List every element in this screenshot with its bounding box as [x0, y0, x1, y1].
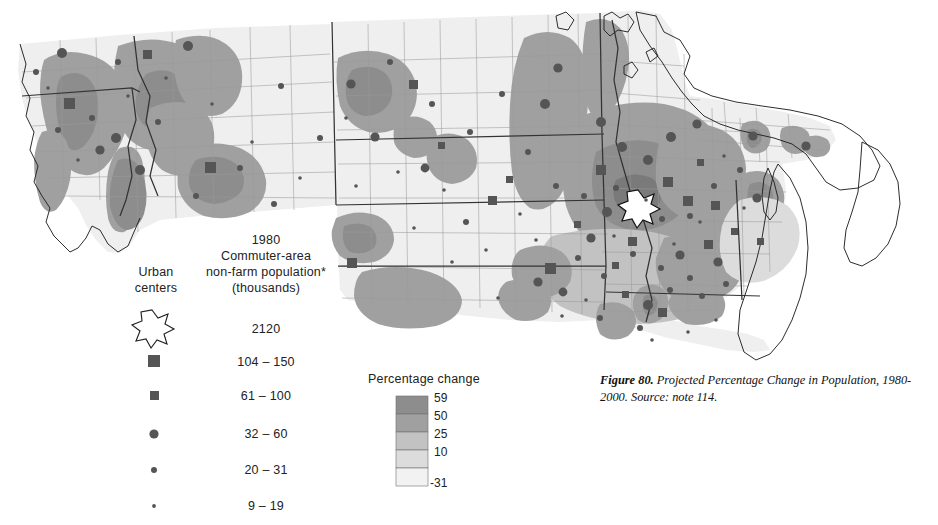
legend-value-star: 2120 — [252, 322, 281, 336]
scale-label-10: 10 — [434, 445, 448, 459]
legend-symbol-circle-small — [151, 467, 157, 473]
legend-symbol-star — [132, 310, 174, 348]
legend-symbol-square-large — [148, 355, 160, 367]
legend-value-circle-small: 20 – 31 — [244, 463, 287, 477]
figure-80-map: Urban centers 1980 Commuter-area non-far… — [0, 0, 938, 525]
legend-symbol-square-small — [150, 391, 159, 400]
figure-caption: Figure 80. Projected Percentage Change i… — [600, 372, 920, 406]
scale-swatch-minus31 — [396, 468, 428, 486]
legend-value-square-large: 104 – 150 — [237, 355, 294, 369]
population-header-line3: non-farm population* — [206, 265, 326, 279]
scale-label-minus31: -31 — [430, 476, 448, 490]
scale-label-50: 50 — [434, 409, 448, 423]
population-header-line1: 1980 — [252, 233, 281, 247]
urban-centers-legend: Urban centers 1980 Commuter-area non-far… — [132, 233, 326, 513]
legend-symbol-dot-tiny — [152, 504, 156, 508]
scale-label-25: 25 — [434, 427, 448, 441]
scale-label-59: 59 — [434, 391, 448, 405]
population-header-line4: (thousands) — [232, 281, 300, 295]
population-header-line2: Commuter-area — [221, 249, 311, 263]
map-svg: Urban centers 1980 Commuter-area non-far… — [0, 0, 938, 525]
scale-swatch-50 — [396, 414, 428, 432]
urban-legend-title-line2: centers — [135, 281, 177, 295]
scale-swatch-25 — [396, 432, 428, 450]
scale-swatch-10 — [396, 450, 428, 468]
scale-swatch-59 — [396, 396, 428, 414]
legend-symbol-circle-large — [149, 429, 158, 438]
percentage-change-legend: Percentage change 59 50 25 10 -31 — [368, 372, 480, 490]
figure-caption-label: Figure 80. — [600, 373, 654, 387]
legend-value-circle-large: 32 – 60 — [244, 427, 287, 441]
legend-value-square-small: 61 – 100 — [241, 389, 291, 403]
legend-value-dot-tiny: 9 – 19 — [248, 499, 284, 513]
urban-legend-title-line1: Urban — [138, 265, 173, 279]
percentage-legend-title: Percentage change — [368, 372, 480, 386]
